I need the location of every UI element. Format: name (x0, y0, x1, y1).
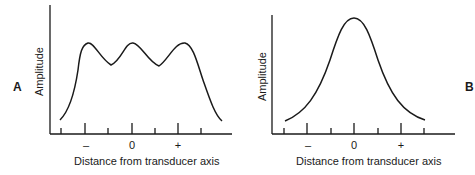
panel-b-tick-minus: – (302, 139, 314, 151)
panel-b-axes (272, 15, 455, 134)
panel-a-x-axis-label: Distance from transducer axis (74, 155, 220, 167)
panel-a-label: A (13, 80, 22, 94)
panel-a-curve (60, 43, 222, 121)
panel-b-label: B (465, 80, 474, 94)
panel-a-tick-zero: 0 (126, 139, 138, 151)
panel-b-curve (285, 18, 425, 121)
panel-a-axes (50, 5, 232, 134)
panel-a-tick-minus: – (80, 139, 92, 151)
panel-b-y-axis-label: Amplitude (256, 52, 268, 101)
panel-b-tick-plus: + (395, 139, 407, 151)
panel-a-tick-plus: + (172, 139, 184, 151)
panel-b-tick-zero: 0 (348, 139, 360, 151)
panel-a-y-axis-label: Amplitude (33, 47, 45, 96)
panel-b-x-axis-label: Distance from transducer axis (296, 155, 442, 167)
